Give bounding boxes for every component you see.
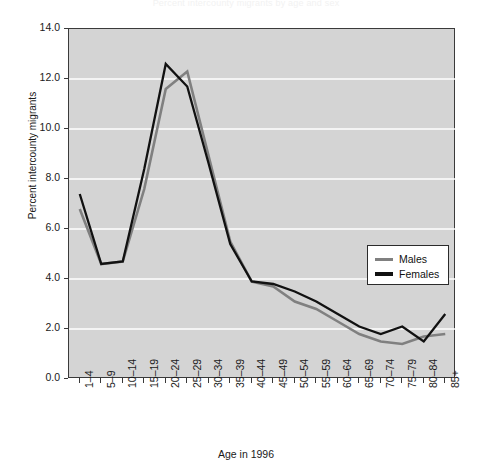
x-tick-label: 15–19	[148, 359, 160, 388]
x-tick-mark	[315, 378, 316, 383]
x-tick-mark	[272, 378, 273, 383]
x-tick-mark	[294, 378, 295, 383]
x-tick-mark	[358, 378, 359, 383]
y-tick-label: 4.0	[18, 271, 60, 283]
x-tick-mark	[251, 378, 252, 383]
x-tick-label: 75–79	[406, 359, 418, 388]
x-tick-label: 5–9	[105, 370, 117, 388]
x-tick-mark	[186, 378, 187, 383]
x-tick-label: 1–4	[83, 370, 95, 388]
x-tick-mark	[165, 378, 166, 383]
y-tick-label: 14.0	[18, 21, 60, 33]
x-tick-mark	[79, 378, 80, 383]
legend-swatch-males	[375, 258, 393, 261]
y-tick-mark	[64, 378, 68, 379]
x-tick-label: 20–24	[169, 359, 181, 388]
x-tick-mark	[444, 378, 445, 383]
x-tick-mark	[143, 378, 144, 383]
plot-area	[68, 28, 455, 378]
y-axis-label: Percent intercounty migrants	[27, 46, 38, 266]
legend-label-females: Females	[399, 267, 439, 281]
x-tick-mark	[337, 378, 338, 383]
x-tick-mark	[100, 378, 101, 383]
x-tick-label: 60–64	[341, 359, 353, 388]
x-tick-label: 40–44	[255, 359, 267, 388]
series-lines	[80, 64, 446, 344]
y-tick-label: 10.0	[18, 121, 60, 133]
x-tick-label: 10–14	[126, 359, 138, 388]
x-tick-mark	[380, 378, 381, 383]
x-tick-label: 50–54	[298, 359, 310, 388]
x-tick-mark	[401, 378, 402, 383]
y-tick-label: 6.0	[18, 221, 60, 233]
x-tick-label: 70–74	[384, 359, 396, 388]
x-axis-label: Age in 1996	[0, 448, 492, 460]
legend-label-males: Males	[399, 252, 427, 266]
x-tick-mark	[229, 378, 230, 383]
x-tick-label: 55–59	[320, 359, 332, 388]
x-tick-label: 80–84	[427, 359, 439, 388]
x-tick-label: 35–39	[234, 359, 246, 388]
x-tick-label: 85+	[449, 370, 461, 388]
series-line-females	[80, 64, 446, 342]
plot-svg	[69, 29, 456, 379]
x-tick-label: 30–34	[212, 359, 224, 388]
x-tick-mark	[423, 378, 424, 383]
y-tick-label: 8.0	[18, 171, 60, 183]
x-tick-label: 25–29	[191, 359, 203, 388]
y-tick-label: 2.0	[18, 321, 60, 333]
chart-figure: Percent intercounty migrants by age and …	[0, 0, 492, 473]
y-tick-label: 0.0	[18, 371, 60, 383]
legend-item-males[interactable]: Males	[375, 252, 427, 266]
gridlines	[69, 79, 456, 329]
x-tick-label: 65–69	[363, 359, 375, 388]
x-tick-mark	[208, 378, 209, 383]
chart-legend: Males Females	[367, 245, 449, 285]
legend-swatch-females	[375, 272, 393, 276]
x-tick-mark	[122, 378, 123, 383]
legend-item-females[interactable]: Females	[375, 267, 439, 281]
x-tick-label: 45–49	[277, 359, 289, 388]
y-tick-label: 12.0	[18, 71, 60, 83]
